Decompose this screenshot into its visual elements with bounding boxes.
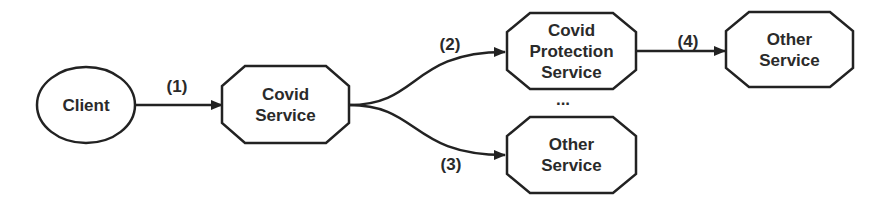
edge-1-label: (1) [167, 77, 188, 97]
client-node-label: Client [37, 67, 135, 143]
edge-2-curve [349, 52, 505, 105]
edge-3-label: (3) [441, 155, 462, 175]
edge-2-label: (2) [440, 35, 461, 55]
other-service-bottom-node-label: Other Service [507, 117, 636, 193]
other-service-right-node-label: Other Service [726, 12, 853, 87]
covid-service-node-label: Covid Service [222, 66, 349, 143]
edge-4-label: (4) [678, 32, 699, 52]
more-services-ellipsis: ... [556, 90, 570, 110]
edge-3-curve [349, 105, 505, 155]
covid-protection-service-node-label: Covid Protection Service [507, 13, 636, 89]
